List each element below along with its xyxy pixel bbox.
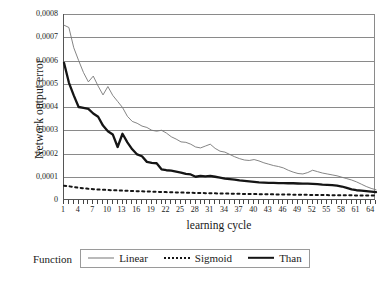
y-tick-label: 0 [14,196,58,204]
y-tick-label: 0,0008 [14,10,58,18]
x-tick [200,200,201,204]
x-tick [78,200,79,204]
x-tick [282,200,283,204]
legend-swatch-icon [248,255,274,261]
x-tick [336,200,337,204]
x-tick [268,200,269,204]
x-tick-label: 64 [366,205,374,214]
x-tick [170,200,171,204]
x-tick-label: 19 [147,205,155,214]
x-tick [297,200,298,204]
x-tick [175,200,176,204]
x-tick-label: 43 [264,205,272,214]
x-tick [258,200,259,204]
x-tick [214,200,215,204]
x-tick [92,200,93,204]
x-tick-label: 1 [61,205,65,214]
x-tick [87,200,88,204]
x-tick-label: 4 [76,205,80,214]
x-tick [122,200,123,204]
series-line-sigmoid [64,186,376,196]
legend-box: LinearSigmoidThan [80,249,310,268]
x-tick [68,200,69,204]
x-tick-label: 22 [161,205,169,214]
x-tick [234,200,235,204]
chart-figure: Network output error 0,00080,00070,00060… [0,0,392,283]
x-tick [312,200,313,204]
x-tick [102,200,103,204]
legend-label: Sigmoid [195,252,232,264]
x-tick [321,200,322,204]
x-tick-label: 25 [176,205,184,214]
x-tick [370,200,371,204]
x-tick [360,200,361,204]
legend-entry-than[interactable]: Than [248,252,302,264]
x-tick [185,200,186,204]
series-line-linear [64,25,376,190]
x-tick [63,200,64,204]
y-tick-label: 0,0005 [14,80,58,88]
legend-label: Than [279,252,302,264]
x-tick [131,200,132,204]
x-tick-label: 31 [205,205,213,214]
x-tick [209,200,210,204]
x-tick [136,200,137,204]
x-tick [307,200,308,204]
x-tick [375,200,376,204]
x-tick-label: 49 [293,205,301,214]
x-tick [112,200,113,204]
x-tick-label: 58 [337,205,345,214]
series-lines [64,14,376,200]
legend-title: Function [33,253,72,265]
legend-label: Linear [119,252,148,264]
x-tick [341,200,342,204]
x-tick [346,200,347,204]
legend-entry-linear[interactable]: Linear [88,252,148,264]
x-tick-label: 37 [235,205,243,214]
x-tick-label: 7 [90,205,94,214]
x-tick [253,200,254,204]
x-tick [126,200,127,204]
y-tick-label: 0,0004 [14,103,58,111]
x-tick [117,200,118,204]
x-tick-label: 16 [132,205,140,214]
legend-swatch-icon [164,255,190,261]
x-tick [190,200,191,204]
x-tick [180,200,181,204]
x-tick-label: 13 [118,205,126,214]
x-tick [161,200,162,204]
y-tick-label: 0,0006 [14,57,58,65]
x-tick [365,200,366,204]
legend: Function LinearSigmoidThan [33,249,310,268]
x-tick [273,200,274,204]
x-tick [326,200,327,204]
x-tick [248,200,249,204]
x-tick [302,200,303,204]
x-tick-label: 52 [308,205,316,214]
legend-swatch-icon [88,255,114,261]
y-tick-label: 0,0003 [14,126,58,134]
x-tick [146,200,147,204]
x-tick [239,200,240,204]
plot-area [63,14,375,200]
legend-entry-sigmoid[interactable]: Sigmoid [164,252,232,264]
x-tick [263,200,264,204]
y-tick-label: 0,0001 [14,173,58,181]
x-tick [229,200,230,204]
x-tick [292,200,293,204]
x-tick [195,200,196,204]
x-tick-label: 10 [103,205,111,214]
x-tick [224,200,225,204]
x-tick [243,200,244,204]
y-tick-label: 0,0007 [14,33,58,41]
x-tick [97,200,98,204]
x-tick [156,200,157,204]
x-tick-label: 40 [249,205,257,214]
x-tick-label: 55 [322,205,330,214]
x-tick-label: 34 [220,205,228,214]
x-tick [278,200,279,204]
x-axis-title: learning cycle [63,219,375,231]
x-tick [204,200,205,204]
x-tick [356,200,357,204]
x-tick [107,200,108,204]
